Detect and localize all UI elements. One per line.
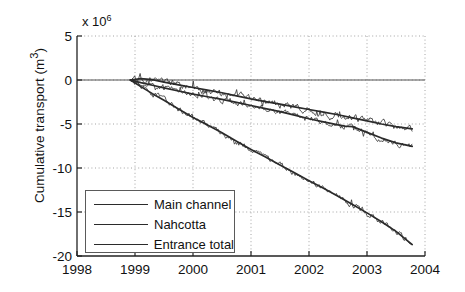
x-axis-tick-label: 1999 <box>105 262 165 277</box>
legend-item-entrance-total: Entrance total <box>86 234 234 254</box>
x-axis-tick-label: 2000 <box>163 262 223 277</box>
x-axis-tick-label: 1998 <box>47 262 107 277</box>
legend-swatch-line-icon <box>94 224 148 225</box>
chart-legend: Main channel Nahcotta Entrance total <box>85 190 235 253</box>
x-axis-tick-label: 2001 <box>221 262 281 277</box>
legend-swatch-line-icon <box>94 244 148 245</box>
legend-label: Main channel <box>154 197 231 212</box>
legend-swatch-line-icon <box>94 204 148 205</box>
figure-container: x 106 Cumulative transport (m3) 50-5-10-… <box>0 0 465 292</box>
x-axis-tick-label: 2004 <box>395 262 455 277</box>
legend-item-main-channel: Main channel <box>86 194 234 214</box>
legend-label: Entrance total <box>154 237 234 252</box>
legend-item-nahcotta: Nahcotta <box>86 214 234 234</box>
legend-label: Nahcotta <box>154 217 206 232</box>
x-axis-tick-label: 2002 <box>279 262 339 277</box>
x-axis-tick-label: 2003 <box>337 262 397 277</box>
